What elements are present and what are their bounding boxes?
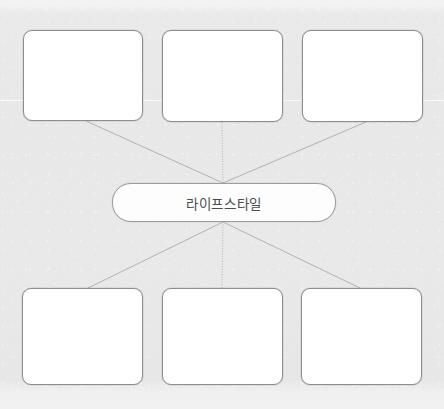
connector-to-bottom-left xyxy=(86,222,223,289)
branch-node-bottom-left[interactable] xyxy=(22,288,143,385)
branch-node-top-center[interactable] xyxy=(162,30,283,122)
branch-node-top-right[interactable] xyxy=(302,30,423,122)
connector-to-top-right xyxy=(223,122,366,183)
branch-node-top-left[interactable] xyxy=(23,30,143,121)
connector-to-top-center xyxy=(222,122,223,183)
branch-node-bottom-center[interactable] xyxy=(162,288,283,385)
central-node[interactable]: 라이프스타일 xyxy=(112,183,336,222)
scanned-diagram-page: 라이프스타일 xyxy=(0,0,444,409)
connector-to-top-left xyxy=(86,121,223,183)
connector-to-bottom-center xyxy=(222,222,223,288)
central-node-label: 라이프스타일 xyxy=(186,193,262,213)
branch-node-bottom-right[interactable] xyxy=(301,288,422,385)
connector-to-bottom-right xyxy=(223,222,362,289)
